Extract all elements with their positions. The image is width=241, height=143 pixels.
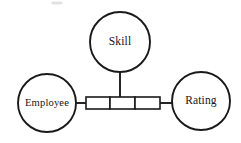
scan-artifact [51, 1, 63, 4]
relationship-cell-2[interactable] [110, 97, 135, 109]
er-diagram-svg: Skill Employee Rating [0, 0, 241, 143]
entity-label-employee: Employee [25, 97, 69, 108]
entity-label-rating: Rating [185, 94, 217, 107]
entity-node-employee[interactable]: Employee [18, 74, 76, 132]
relationship-box[interactable] [86, 97, 160, 109]
relationship-cell-3[interactable] [135, 97, 160, 109]
entity-node-skill[interactable]: Skill [90, 12, 150, 72]
er-diagram-canvas: Skill Employee Rating [0, 0, 241, 143]
entity-node-rating[interactable]: Rating [172, 72, 230, 130]
relationship-cell-1[interactable] [86, 97, 110, 109]
entity-label-skill: Skill [109, 35, 131, 47]
